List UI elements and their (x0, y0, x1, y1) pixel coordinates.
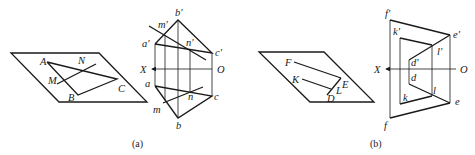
caption-b: (b) (370, 138, 382, 150)
projection-b: X O f' k' e' l' d' d l k e f (373, 8, 468, 131)
label-O: O (460, 64, 468, 75)
label-c: c (214, 91, 219, 102)
label-d-prime: d' (411, 57, 419, 68)
descriptive-geometry-figure: A N M B C X O b' m' a' (0, 0, 475, 155)
projection-a: X O b' m' a' n' c' a n c m b (139, 7, 225, 131)
line-mn (57, 64, 96, 84)
label-C: C (118, 83, 126, 94)
triangle-abc (47, 62, 117, 95)
figure-b: F K E L D X O f' k' e' (259, 8, 468, 150)
label-m: m (153, 104, 161, 115)
line-kl (302, 79, 331, 89)
label-D: D (326, 93, 335, 104)
label-N: N (77, 55, 86, 66)
top-line-mn (163, 87, 203, 103)
label-X: X (373, 64, 381, 75)
label-f-prime: f' (385, 8, 391, 19)
plane-parallelogram (259, 52, 374, 102)
label-a: a (145, 78, 150, 89)
label-k: k (403, 92, 408, 103)
front-line-kl (400, 38, 432, 45)
plane-a-spatial: A N M B C (11, 53, 147, 103)
label-X: X (139, 64, 147, 75)
label-a-prime: a' (142, 38, 150, 49)
caption-a: (a) (132, 138, 143, 150)
label-L: L (335, 85, 342, 96)
front-line-mn (149, 26, 206, 60)
top-line-fe (390, 103, 450, 118)
label-E: E (341, 79, 349, 90)
label-d: d (411, 72, 417, 83)
label-n: n (188, 91, 193, 102)
label-f: f (384, 120, 389, 131)
label-M: M (47, 75, 58, 86)
label-e: e (455, 96, 460, 107)
label-A: A (39, 56, 47, 67)
label-O: O (217, 64, 225, 75)
label-l-prime: l' (437, 46, 443, 57)
label-K: K (291, 74, 300, 85)
label-k-prime: k' (393, 26, 401, 37)
label-B: B (68, 92, 75, 103)
label-c-prime: c' (215, 47, 223, 58)
top-triangle (155, 86, 212, 118)
plane-b-spatial: F K E L D (259, 52, 374, 104)
label-n-prime: n' (186, 37, 194, 48)
label-e-prime: e' (453, 29, 461, 40)
figure-a: A N M B C X O b' m' a' (11, 7, 225, 150)
label-m-prime: m' (158, 19, 169, 30)
label-b-prime: b' (175, 7, 183, 18)
label-l: l (433, 85, 436, 96)
line-fe (294, 62, 341, 78)
label-b: b (176, 120, 181, 131)
label-F: F (284, 57, 292, 68)
